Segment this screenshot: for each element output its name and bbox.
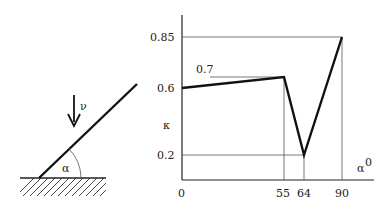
x-axis-label-sup: 0 xyxy=(365,156,372,169)
annotation-07: 0.7 xyxy=(196,63,214,76)
y-tick-02: 0.2 xyxy=(157,149,175,162)
angle-arc xyxy=(69,149,81,178)
y-axis-label: κ xyxy=(163,119,170,132)
x-tick-64: 64 xyxy=(297,187,311,200)
y-tick-06: 0.6 xyxy=(157,82,175,95)
angle-label: α xyxy=(62,162,70,175)
chart: 0.85 0.6 0.2 κ 0.7 0 55 64 90 α 0 xyxy=(150,15,374,200)
data-line xyxy=(182,37,342,155)
left-diagram: α ν xyxy=(14,84,137,198)
inclined-plate xyxy=(39,84,137,178)
y-tick-085: 0.85 xyxy=(150,31,175,44)
velocity-arrow-icon xyxy=(68,95,80,126)
hatched-ground xyxy=(14,178,118,198)
x-tick-55: 55 xyxy=(276,187,290,200)
velocity-label: ν xyxy=(80,100,87,113)
x-tick-90: 90 xyxy=(335,187,349,200)
figure: α ν 0.85 0.6 0.2 κ 0.7 0 55 64 90 xyxy=(0,0,391,209)
x-axis-label: α xyxy=(357,162,365,175)
x-tick-0: 0 xyxy=(178,187,185,200)
